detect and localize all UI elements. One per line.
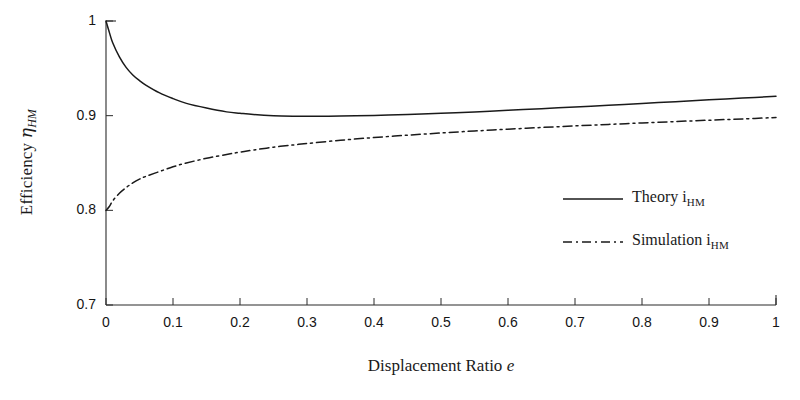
eta-symbol: η xyxy=(16,128,36,138)
legend-item-subscript: HM xyxy=(687,196,705,208)
x-tick-label: 0.4 xyxy=(349,314,399,330)
legend-item-2: Simulation iHM xyxy=(632,231,729,251)
legend-item-1: Theory iHM xyxy=(632,188,705,208)
e-symbol: e xyxy=(507,356,515,375)
series-line-1 xyxy=(106,21,776,116)
y-tick-label: 0.9 xyxy=(46,107,96,123)
legend-item-label: Simulation i xyxy=(632,231,711,248)
x-tick-label: 0.5 xyxy=(416,314,466,330)
x-tick-label: 0.3 xyxy=(282,314,332,330)
x-tick-label: 0.9 xyxy=(684,314,734,330)
legend-item-subscript: HM xyxy=(711,239,729,251)
figure-root: Efficiency ηHM Displacement Ratio e 0.70… xyxy=(0,0,800,400)
y-axis-title-text: Efficiency xyxy=(17,138,36,215)
x-tick-label: 0.6 xyxy=(483,314,533,330)
y-axis-title-subscript: HM xyxy=(25,109,39,128)
legend-item-label: Theory i xyxy=(632,188,687,205)
x-tick-label: 1 xyxy=(751,314,800,330)
y-tick-label: 0.8 xyxy=(46,201,96,217)
y-tick-label: 0.7 xyxy=(46,296,96,312)
x-tick-label: 0.2 xyxy=(215,314,265,330)
y-axis-title: Efficiency ηHM xyxy=(16,42,40,282)
y-tick-label: 1 xyxy=(46,12,96,28)
x-tick-label: 0.1 xyxy=(148,314,198,330)
x-tick-label: 0 xyxy=(81,314,131,330)
x-tick-label: 0.7 xyxy=(550,314,600,330)
x-axis-title: Displacement Ratio e xyxy=(106,356,776,376)
x-tick-label: 0.8 xyxy=(617,314,667,330)
x-axis-title-text: Displacement Ratio xyxy=(368,356,507,375)
